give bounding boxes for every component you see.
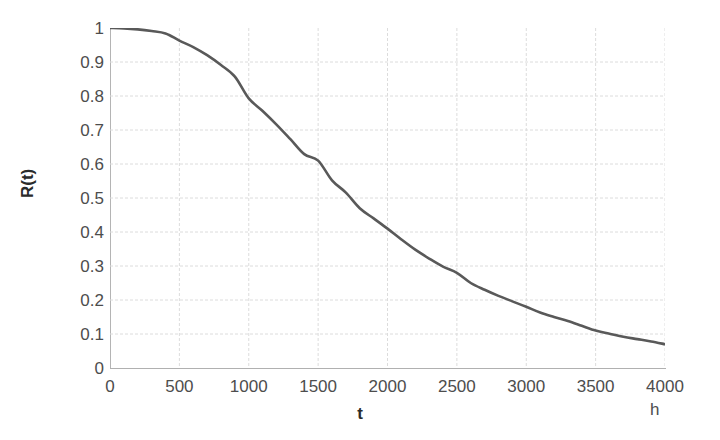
x-tick-label: 500	[165, 378, 193, 395]
plot-area	[110, 28, 665, 368]
y-tick-label: 0.8	[60, 88, 104, 105]
x-tick-label: 1000	[230, 378, 268, 395]
y-axis-tick-labels: 10.90.80.70.60.50.40.30.20.10	[48, 0, 104, 440]
x-axis-title: t	[0, 404, 720, 424]
x-axis-line	[110, 368, 666, 369]
reliability-curve	[110, 28, 665, 368]
y-tick-label: 0.2	[60, 292, 104, 309]
series-line	[110, 28, 665, 344]
y-tick-label: 0.3	[60, 258, 104, 275]
x-axis-tick-labels: 05001000150020002500300035004000	[0, 378, 720, 402]
x-tick-label: 2500	[438, 378, 476, 395]
x-tick-label: 2000	[369, 378, 407, 395]
y-axis-title: R(t)	[18, 169, 38, 198]
x-tick-label: 1500	[299, 378, 337, 395]
x-tick-label: 4000	[646, 378, 684, 395]
y-tick-label: 0.6	[60, 156, 104, 173]
y-tick-label: 0.9	[60, 54, 104, 71]
x-tick-label: 3000	[507, 378, 545, 395]
y-tick-label: 1	[60, 20, 104, 37]
y-tick-label: 0.4	[60, 224, 104, 241]
x-axis-unit-label: h	[650, 400, 659, 420]
chart-page: 10.90.80.70.60.50.40.30.20.10 R(t) 05001…	[0, 0, 720, 440]
y-tick-label: 0	[60, 360, 104, 377]
x-tick-label: 3500	[577, 378, 615, 395]
y-tick-label: 0.1	[60, 326, 104, 343]
y-tick-label: 0.5	[60, 190, 104, 207]
x-tick-label: 0	[105, 378, 114, 395]
y-tick-label: 0.7	[60, 122, 104, 139]
